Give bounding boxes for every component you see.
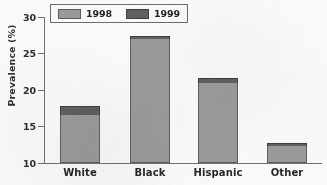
x-axis-line — [44, 163, 322, 164]
y-axis-tick — [38, 53, 44, 54]
bar-chart-figure: 30 25 20 15 10 Prevalence (%) WhiteBlack… — [0, 0, 327, 185]
y-axis-tick-label: 10 — [2, 158, 36, 169]
bar-segment-1999-other — [267, 143, 307, 146]
x-axis-label-white: White — [46, 167, 114, 178]
bar-segment-1998-black — [130, 39, 170, 163]
legend-label-1999: 1999 — [154, 8, 180, 19]
bar-white — [60, 106, 100, 163]
x-axis-label-hispanic: Hispanic — [184, 167, 252, 178]
legend-entry-1998: 1998 — [58, 8, 112, 19]
legend-swatch-1999 — [126, 9, 149, 19]
y-axis-tick-label: 15 — [2, 121, 36, 132]
legend-label-1998: 1998 — [86, 8, 112, 19]
y-axis-tick — [38, 163, 44, 164]
legend-entry-1999: 1999 — [126, 8, 180, 19]
chart-legend: 1998 1999 — [50, 4, 188, 23]
y-axis-tick — [38, 90, 44, 91]
bar-segment-1999-black — [130, 36, 170, 39]
bar-segment-1998-other — [267, 146, 307, 163]
legend-swatch-1998 — [58, 9, 81, 19]
bar-black — [130, 36, 170, 163]
y-axis-line — [44, 17, 45, 164]
y-axis-tick — [38, 17, 44, 18]
x-axis-label-other: Other — [253, 167, 321, 178]
bar-hispanic — [198, 78, 238, 163]
bar-segment-1998-hispanic — [198, 83, 238, 163]
bar-segment-1999-hispanic — [198, 78, 238, 82]
bar-segment-1999-white — [60, 106, 100, 115]
bar-segment-1998-white — [60, 115, 100, 163]
x-axis-label-black: Black — [116, 167, 184, 178]
plot-area: 30 25 20 15 10 Prevalence (%) WhiteBlack… — [0, 0, 327, 185]
y-axis-tick — [38, 126, 44, 127]
y-axis-title: Prevalence (%) — [6, 11, 17, 121]
bar-other — [267, 143, 307, 163]
